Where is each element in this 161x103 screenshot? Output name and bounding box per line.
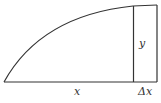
- label-y: y: [138, 37, 146, 50]
- label-x: x: [74, 85, 81, 98]
- diagram-canvas: y x Δx: [0, 0, 161, 103]
- label-delta-x: Δx: [137, 85, 153, 98]
